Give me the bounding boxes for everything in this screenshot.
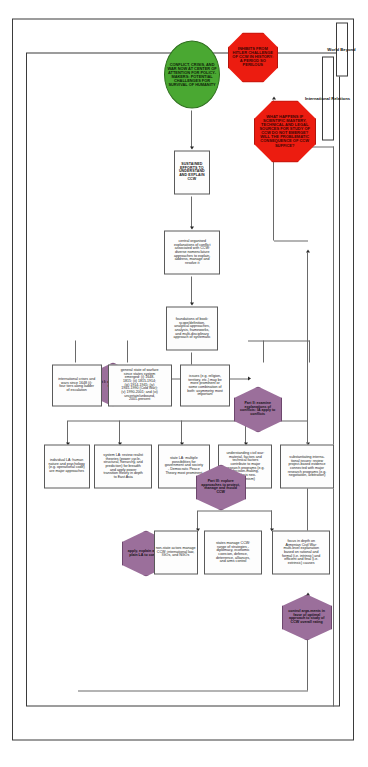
node-general-state-text: general state of warfare since states sy… [120,368,160,403]
node-central-organised: central organised explanations of confli… [164,230,220,274]
connector [75,340,76,362]
label-international-relations: International Relations [322,56,334,140]
connector [263,340,264,362]
arrow-head [191,146,195,149]
node-start-ellipse-text: CONFLICT, CRISIS, AND WAR NOW AT CENTER … [166,61,218,87]
node-substantiating-text: substantiating interna-tional issues: re… [286,454,328,478]
label-international-relations-text: International Relations [305,95,350,100]
connector [78,690,308,691]
arrow-head [248,376,251,380]
node-international-crises-text: international crises and wars since 1648… [57,377,97,394]
arrow-head [273,96,277,99]
connector [191,110,192,148]
node-general-state: general state of warfare since states sy… [108,364,172,406]
node-sustained-efforts-text: SUSTAINED EFFORTS TO UNDERSTAND AND EXPL… [175,162,209,182]
connector [191,276,192,304]
node-inhibits-text: INHIBITS FROM HITLER CHALLENGE OF CCW IN… [230,46,276,68]
node-what-happens-text: WHAT HAPPENS IF SCIENTIFIC MASTERY, TECH… [256,114,314,149]
connector [273,150,274,240]
connector [198,510,272,511]
node-substantiating: substantiating interna-tional issues: re… [280,444,334,488]
node-start-ellipse: CONFLICT, CRISIS, AND WAR NOW AT CENTER … [164,40,220,108]
arrow-head [191,226,195,229]
connector [119,420,120,444]
connector [191,196,192,228]
node-foundations-text: foundations of book: scope/definition, a… [171,316,213,340]
arrow-head [307,249,311,252]
connector [67,420,68,444]
connector [309,340,310,362]
connector [197,510,198,530]
node-states-manage-text: states manage CCW: range of strategies -… [212,540,254,564]
node-issues: issues (e.g. religion, territory, etc.) … [180,364,230,406]
connector [307,252,308,532]
diagram-canvas: World Beyond International Relations [0,0,368,767]
node-states-manage: states manage CCW: range of strategies -… [204,530,262,574]
node-part-iii-text: Part III: explore approaches to protect,… [200,479,242,496]
node-control-arguments-text: control arga-ments in favor of optimal a… [285,609,329,626]
connector [333,146,334,706]
arrow-head [191,302,195,305]
node-central-organised-text: central organised explanations of confli… [171,238,213,266]
node-individual-la: individual LA: human nature and psycholo… [44,444,90,488]
node-system-la: system LA: review realist theories (powe… [94,444,152,488]
node-focus-in-depth: focus in depth on Armenian Civil War: mu… [272,530,330,574]
label-world-beyond-text: World Beyond [328,47,356,52]
label-world-beyond: World Beyond [336,22,348,76]
node-nonstate-manage: non-state actors manage CCW: internation… [154,530,198,574]
node-individual-la-text: individual LA: human nature and psycholo… [46,458,88,475]
connector [127,340,128,362]
node-focus-in-depth-text: focus in depth on Armenian Civil War: mu… [280,538,322,566]
connector [271,510,272,530]
connector [274,240,308,241]
node-foundations: foundations of book: scope/definition, a… [166,306,218,350]
node-international-crises: international crises and wars since 1648… [52,364,102,406]
node-system-la-text: system LA: review realist theories (powe… [102,452,144,480]
connector [248,340,310,341]
node-part-ii-text: Part II: examine explanations of conflic… [237,401,279,418]
node-state-la-text: state LA: multiple possibilities for gov… [163,456,205,476]
connector [181,420,182,444]
node-nonstate-manage-text: non-state actors manage CCW: internation… [155,546,197,559]
node-issues-text: issues (e.g. religion, territory, etc.) … [185,373,225,397]
node-sustained-efforts: SUSTAINED EFFORTS TO UNDERSTAND AND EXPL… [174,150,210,194]
